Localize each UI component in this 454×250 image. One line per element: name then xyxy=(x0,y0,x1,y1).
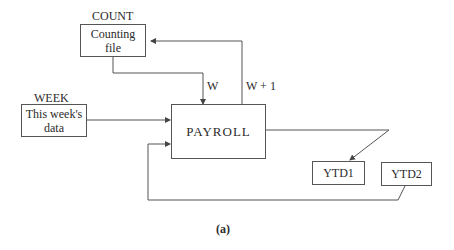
count-node: Counting file xyxy=(80,24,146,57)
payroll-node: PAYROLL xyxy=(171,104,266,159)
figure-caption: (a) xyxy=(216,222,230,237)
payroll-text: PAYROLL xyxy=(186,125,251,139)
week-text-line1: This week's xyxy=(26,107,82,121)
ytd2-node: YTD2 xyxy=(381,162,432,186)
edge-label-w-plus-1: W + 1 xyxy=(246,79,276,94)
edge-payroll-to-ytd1 xyxy=(265,130,389,160)
ytd1-node: YTD1 xyxy=(312,161,365,185)
ytd1-text: YTD1 xyxy=(323,166,354,180)
count-text-line1: Counting xyxy=(91,27,136,41)
count-text-line2: file xyxy=(105,41,121,55)
count-label: COUNT xyxy=(92,9,133,24)
ytd2-text: YTD2 xyxy=(391,167,422,181)
edge-count-to-payroll xyxy=(113,57,203,104)
week-text-line2: data xyxy=(44,121,64,135)
week-node: This week's data xyxy=(21,104,87,137)
edge-label-w: W xyxy=(207,79,218,94)
